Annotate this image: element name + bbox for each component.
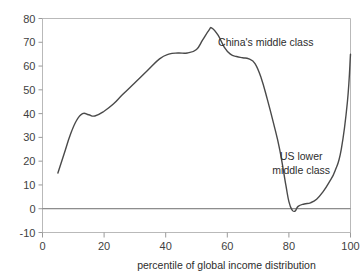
y-tick-label: 70 [23,36,35,48]
chart-canvas: -1001020304050607080020406080100China's … [0,0,364,275]
annotation-us-lower-middle-class: US lowermiddle class [272,150,330,176]
y-axis: -1001020304050607080 [20,13,43,239]
y-tick-label: 40 [23,108,35,120]
y-tick-label: 20 [23,155,35,167]
annotation-line: middle class [272,164,330,176]
y-tick-label: 10 [23,179,35,191]
y-tick-label: 0 [29,203,35,215]
x-tick-label: 100 [341,240,359,252]
income-growth-chart: -1001020304050607080020406080100China's … [0,0,364,275]
y-tick-label: -10 [20,227,36,239]
x-axis: 020406080100 [39,233,359,252]
y-tick-label: 80 [23,13,35,25]
x-tick-label: 40 [160,240,172,252]
y-tick-label: 60 [23,60,35,72]
annotation-line: US lower [280,150,323,162]
x-tick-label: 80 [283,240,295,252]
x-tick-label: 20 [98,240,110,252]
income-growth-curve [58,28,351,212]
y-tick-label: 30 [23,131,35,143]
x-axis-title: percentile of global income distribution [137,259,316,271]
plot-frame [43,19,351,233]
x-tick-label: 0 [39,240,45,252]
x-tick-label: 60 [221,240,233,252]
annotation-china-middle-class: China's middle class [218,36,313,48]
y-tick-label: 50 [23,84,35,96]
